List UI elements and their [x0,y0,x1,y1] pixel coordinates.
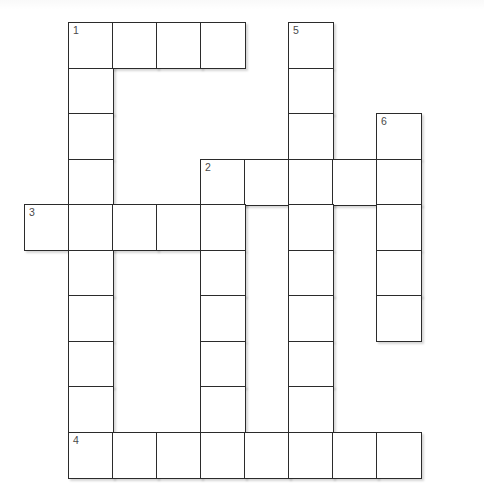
crossword-cell[interactable]: 6 [376,113,422,160]
cell-letter [289,387,333,432]
crossword-cell[interactable] [288,341,334,388]
crossword-cell[interactable] [288,386,334,433]
crossword-cell[interactable] [332,432,378,479]
crossword-cell[interactable] [376,432,422,479]
crossword-cell[interactable] [68,295,114,342]
crossword-cell[interactable] [244,159,290,206]
cell-letter [113,433,157,478]
crossword-cell[interactable] [288,295,334,342]
cell-letter [377,160,421,205]
crossword-cell[interactable] [332,159,378,206]
crossword-cell[interactable] [288,432,334,479]
crossword-cell[interactable] [376,159,422,206]
crossword-cell[interactable] [68,113,114,160]
cell-letter [377,114,421,159]
crossword-cell[interactable] [156,432,202,479]
cell-letter [69,387,113,432]
crossword-grid[interactable]: 156234 [0,0,484,494]
crossword-cell[interactable] [200,341,246,388]
crossword-cell[interactable] [288,250,334,297]
cell-letter [113,205,157,250]
cell-letter [289,342,333,387]
cell-letter [157,23,201,68]
crossword-cell[interactable]: 4 [68,432,114,479]
crossword-cell[interactable]: 2 [200,159,246,206]
crossword-cell[interactable]: 3 [24,204,70,251]
cell-letter [377,433,421,478]
cell-letter [69,342,113,387]
cell-letter [69,23,113,68]
crossword-cell[interactable]: 5 [288,22,334,69]
crossword-cell[interactable] [156,22,202,69]
crossword-cell[interactable] [200,22,246,69]
crossword-cell[interactable] [112,22,158,69]
crossword-cell[interactable] [68,204,114,251]
crossword-cell[interactable] [288,204,334,251]
crossword-cell[interactable] [376,204,422,251]
cell-letter [69,296,113,341]
cell-letter [245,160,289,205]
cell-letter [289,251,333,296]
cell-letter [157,205,201,250]
cell-letter [289,160,333,205]
cell-letter [289,205,333,250]
crossword-cell[interactable] [68,250,114,297]
cell-letter [201,251,245,296]
cell-letter [289,114,333,159]
crossword-cell[interactable] [244,432,290,479]
cell-letter [333,433,377,478]
cell-letter [377,296,421,341]
cell-letter [201,23,245,68]
crossword-cell[interactable] [288,113,334,160]
cell-letter [289,69,333,114]
crossword-cell[interactable] [68,68,114,115]
crossword-cell[interactable] [200,295,246,342]
cell-letter [25,205,69,250]
crossword-cell[interactable] [112,432,158,479]
cell-letter [201,433,245,478]
cell-letter [201,342,245,387]
cell-letter [201,160,245,205]
cell-letter [201,205,245,250]
cell-letter [69,160,113,205]
cell-letter [333,160,377,205]
crossword-cell[interactable] [288,159,334,206]
cell-letter [289,433,333,478]
cell-letter [377,251,421,296]
cell-letter [289,296,333,341]
cell-letter [69,69,113,114]
cell-letter [69,114,113,159]
cell-letter [289,23,333,68]
crossword-cell[interactable] [68,341,114,388]
cell-letter [113,23,157,68]
cell-letter [201,296,245,341]
crossword-cell[interactable] [200,204,246,251]
crossword-cell[interactable]: 1 [68,22,114,69]
crossword-cell[interactable] [200,386,246,433]
cell-letter [157,433,201,478]
cell-letter [69,251,113,296]
crossword-cell[interactable] [376,295,422,342]
crossword-cell[interactable] [376,250,422,297]
crossword-puzzle: 156234 [0,0,484,494]
crossword-cell[interactable] [200,250,246,297]
crossword-cell[interactable] [156,204,202,251]
cell-letter [201,387,245,432]
crossword-cell[interactable] [68,159,114,206]
crossword-cell[interactable] [200,432,246,479]
cell-letter [377,205,421,250]
cell-letter [69,433,113,478]
cell-letter [69,205,113,250]
crossword-cell[interactable] [112,204,158,251]
cell-letter [245,433,289,478]
crossword-cell[interactable] [68,386,114,433]
crossword-cell[interactable] [288,68,334,115]
